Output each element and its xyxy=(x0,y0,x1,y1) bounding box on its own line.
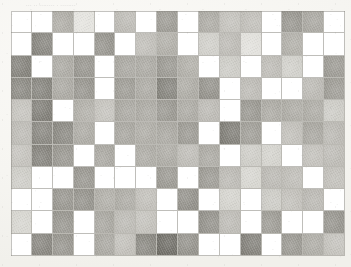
heatmap-cell xyxy=(157,167,178,189)
heatmap-cell xyxy=(262,11,283,33)
heatmap-cell xyxy=(220,11,241,33)
heatmap-cell xyxy=(74,11,95,33)
heatmap-cell xyxy=(199,11,220,33)
heatmap-cell xyxy=(199,234,220,256)
heatmap-cell xyxy=(53,56,74,78)
heatmap-cell xyxy=(74,78,95,100)
heatmap-cell xyxy=(136,11,157,33)
heatmap-cell xyxy=(324,189,345,211)
heatmap-cell xyxy=(178,145,199,167)
heatmap-cell xyxy=(241,100,262,122)
heatmap-cell xyxy=(157,189,178,211)
heatmap-cell xyxy=(11,11,32,33)
heatmap-cell xyxy=(178,56,199,78)
heatmap-cell xyxy=(282,33,303,55)
heatmap-cell xyxy=(74,122,95,144)
heatmap-grid xyxy=(11,11,345,256)
heatmap-cell xyxy=(324,122,345,144)
heatmap-cell xyxy=(241,11,262,33)
heatmap-cell xyxy=(115,234,136,256)
heatmap-cell xyxy=(303,56,324,78)
heatmap-cell xyxy=(178,189,199,211)
heatmap-cell xyxy=(115,211,136,233)
heatmap-cell xyxy=(136,234,157,256)
heatmap-cell xyxy=(136,211,157,233)
heatmap-cell xyxy=(74,234,95,256)
heatmap-cell xyxy=(241,56,262,78)
heatmap-cell xyxy=(282,78,303,100)
heatmap-cell xyxy=(282,189,303,211)
heatmap-cell xyxy=(262,56,283,78)
heatmap-cell xyxy=(74,100,95,122)
heatmap-cell xyxy=(241,33,262,55)
heatmap-cell xyxy=(157,56,178,78)
heatmap-cell xyxy=(53,100,74,122)
heatmap-cell xyxy=(220,122,241,144)
heatmap-cell xyxy=(220,189,241,211)
heatmap-cell xyxy=(262,167,283,189)
heatmap-cell xyxy=(262,33,283,55)
heatmap-cell xyxy=(11,100,32,122)
heatmap-cell xyxy=(157,11,178,33)
heatmap-cell xyxy=(220,234,241,256)
heatmap-cell xyxy=(95,211,116,233)
heatmap-cell xyxy=(74,33,95,55)
heatmap-cell xyxy=(178,33,199,55)
heatmap-cell xyxy=(303,211,324,233)
heatmap-cell xyxy=(11,189,32,211)
heatmap-cell xyxy=(53,145,74,167)
heatmap-cell xyxy=(282,11,303,33)
heatmap-cell xyxy=(32,167,53,189)
heatmap-cell xyxy=(32,56,53,78)
heatmap-cell xyxy=(157,33,178,55)
heatmap-cell xyxy=(178,122,199,144)
heatmap-cell xyxy=(95,189,116,211)
heatmap-cell xyxy=(241,234,262,256)
heatmap-cell xyxy=(199,100,220,122)
heatmap-cell xyxy=(178,167,199,189)
heatmap-cell xyxy=(74,56,95,78)
heatmap-cell xyxy=(157,211,178,233)
heatmap-cell xyxy=(303,78,324,100)
heatmap-cell xyxy=(262,234,283,256)
heatmap-cell xyxy=(324,145,345,167)
heatmap-cell xyxy=(324,56,345,78)
heatmap-cell xyxy=(324,167,345,189)
heatmap-cell xyxy=(199,78,220,100)
heatmap-cell xyxy=(136,78,157,100)
heatmap-cell xyxy=(241,167,262,189)
heatmap-cell xyxy=(262,145,283,167)
heatmap-cell xyxy=(220,145,241,167)
heatmap-cell xyxy=(241,189,262,211)
heatmap-cell xyxy=(95,100,116,122)
heatmap-cell xyxy=(136,33,157,55)
heatmap-cell xyxy=(11,145,32,167)
heatmap-cell xyxy=(262,211,283,233)
heatmap-cell xyxy=(136,145,157,167)
heatmap-cell xyxy=(115,56,136,78)
heatmap-cell xyxy=(95,234,116,256)
heatmap-cell xyxy=(199,33,220,55)
heatmap-cell xyxy=(178,234,199,256)
heatmap-cell xyxy=(157,145,178,167)
heatmap-cell xyxy=(282,56,303,78)
heatmap-cell xyxy=(303,11,324,33)
heatmap-cell xyxy=(32,234,53,256)
heatmap-cell xyxy=(324,234,345,256)
heatmap-cell xyxy=(157,78,178,100)
heatmap-cell xyxy=(136,122,157,144)
heatmap-cell xyxy=(324,11,345,33)
heatmap-cell xyxy=(32,11,53,33)
heatmap-cell xyxy=(115,167,136,189)
heatmap-cell xyxy=(32,145,53,167)
heatmap-cell xyxy=(157,234,178,256)
heatmap-cell xyxy=(241,122,262,144)
heatmap-cell xyxy=(32,100,53,122)
heatmap-cell xyxy=(262,122,283,144)
heatmap-cell xyxy=(241,211,262,233)
heatmap-cell xyxy=(53,234,74,256)
heatmap-cell xyxy=(262,189,283,211)
heatmap-cell xyxy=(74,167,95,189)
heatmap-cell xyxy=(303,122,324,144)
heatmap-cell xyxy=(115,189,136,211)
